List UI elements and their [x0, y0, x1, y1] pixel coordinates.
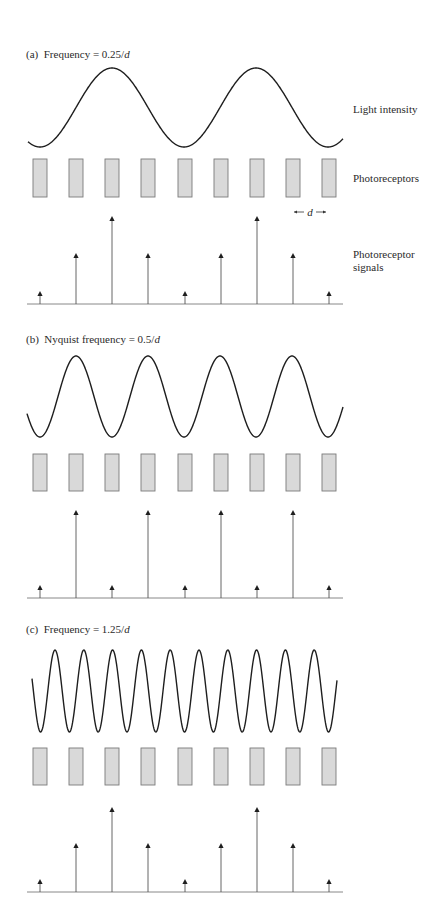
signal-arrowhead-icon: [145, 843, 150, 848]
photoreceptor: [214, 159, 228, 197]
signal-arrowhead-icon: [73, 253, 78, 258]
photoreceptor: [286, 748, 300, 785]
photoreceptor: [178, 748, 192, 785]
signal-arrowhead-icon: [326, 879, 331, 884]
signal-arrowhead-icon: [182, 291, 187, 296]
signal-arrowhead-icon: [254, 585, 259, 590]
photoreceptor: [214, 748, 228, 785]
photoreceptor: [286, 159, 300, 197]
light-intensity-wave: [28, 68, 343, 147]
panel-a: [27, 68, 343, 304]
photoreceptor: [33, 159, 47, 197]
signal-arrowhead-icon: [218, 510, 223, 515]
spacing-d-marker: d: [294, 206, 326, 218]
signal-arrowhead-icon: [182, 585, 187, 590]
photoreceptor: [250, 748, 264, 785]
signal-arrowhead-icon: [182, 879, 187, 884]
signal-arrowhead-icon: [37, 585, 42, 590]
photoreceptor: [141, 748, 155, 785]
photoreceptor: [33, 454, 47, 491]
photoreceptor: [322, 454, 336, 491]
light-intensity-wave: [27, 356, 343, 437]
photoreceptor: [141, 454, 155, 491]
signal-arrowhead-icon: [290, 510, 295, 515]
signal-arrowhead-icon: [326, 585, 331, 590]
photoreceptor: [141, 159, 155, 197]
signal-arrowhead-icon: [290, 843, 295, 848]
signal-arrowhead-icon: [254, 807, 259, 812]
photoreceptor: [250, 454, 264, 491]
photoreceptor: [69, 454, 83, 491]
photoreceptor: [105, 454, 119, 491]
signal-arrowhead-icon: [37, 291, 42, 296]
panel-b: [27, 356, 343, 598]
signal-arrowhead-icon: [109, 216, 114, 221]
panel-c: [27, 650, 343, 892]
signal-arrowhead-icon: [109, 585, 114, 590]
photoreceptor: [69, 159, 83, 197]
photoreceptor: [214, 454, 228, 491]
signal-arrowhead-icon: [73, 510, 78, 515]
signal-arrowhead-icon: [218, 253, 223, 258]
signal-arrowhead-icon: [290, 253, 295, 258]
photoreceptor: [322, 159, 336, 197]
sampling-figure: (a) Frequency = 0.25/d (b) Nyquist frequ…: [0, 0, 427, 900]
signal-arrowhead-icon: [254, 216, 259, 221]
light-intensity-wave: [32, 650, 337, 732]
photoreceptor: [178, 159, 192, 197]
diagram-canvas: d: [0, 0, 427, 900]
signal-arrowhead-icon: [218, 843, 223, 848]
signal-arrowhead-icon: [145, 510, 150, 515]
photoreceptor: [286, 454, 300, 491]
photoreceptor: [250, 159, 264, 197]
spacing-left-arrowhead-icon: [294, 211, 297, 214]
photoreceptor: [322, 748, 336, 785]
spacing-d-label: d: [307, 206, 313, 218]
signal-arrowhead-icon: [73, 843, 78, 848]
photoreceptor: [105, 748, 119, 785]
photoreceptor: [33, 748, 47, 785]
photoreceptor: [105, 159, 119, 197]
signal-arrowhead-icon: [326, 291, 331, 296]
spacing-right-arrowhead-icon: [323, 211, 326, 214]
signal-arrowhead-icon: [145, 253, 150, 258]
signal-arrowhead-icon: [37, 879, 42, 884]
signal-arrowhead-icon: [109, 807, 114, 812]
photoreceptor: [69, 748, 83, 785]
photoreceptor: [178, 454, 192, 491]
